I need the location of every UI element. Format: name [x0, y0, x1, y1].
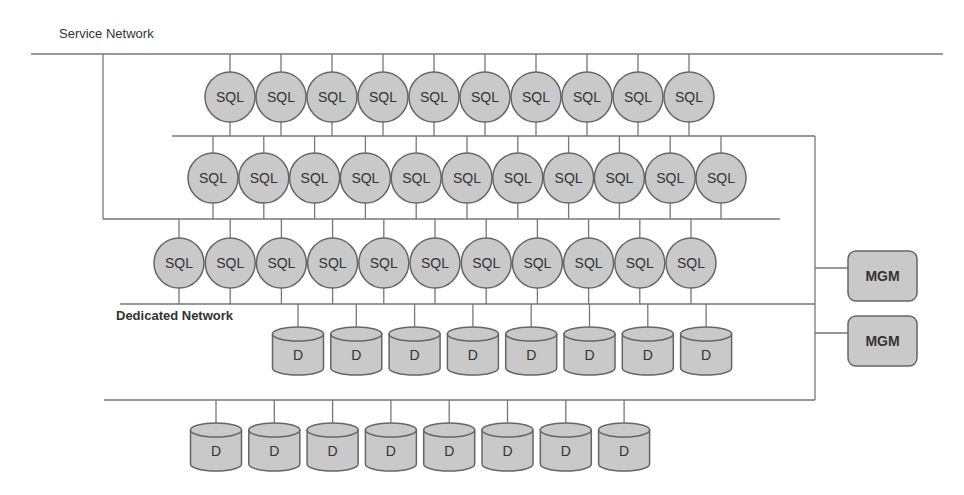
sql-node: SQL	[461, 238, 511, 288]
data-node: D	[599, 423, 650, 471]
data-node-label: D	[386, 443, 396, 459]
sql-node: SQL	[239, 153, 289, 203]
sql-node-label: SQL	[267, 255, 295, 271]
data-node-group: DDDDDDDDDDDDDDDD	[191, 327, 732, 471]
sql-node: SQL	[493, 153, 543, 203]
cluster-topology-diagram: SQLSQLSQLSQLSQLSQLSQLSQLSQLSQLSQLSQLSQLS…	[0, 0, 964, 495]
sql-node-label: SQL	[624, 89, 652, 105]
sql-node-label: SQL	[421, 255, 449, 271]
mgm-node: MGM	[848, 316, 917, 366]
sql-node: SQL	[188, 153, 238, 203]
mgm-node-label: MGM	[865, 268, 899, 284]
data-node: D	[249, 423, 300, 471]
sql-node-label: SQL	[216, 89, 244, 105]
data-node: D	[622, 327, 673, 375]
data-node: D	[424, 423, 475, 471]
data-node-top	[681, 327, 732, 341]
sql-node-label: SQL	[165, 255, 193, 271]
data-node-top	[424, 423, 475, 437]
data-node-label: D	[351, 347, 361, 363]
diagram-canvas: SQLSQLSQLSQLSQLSQLSQLSQLSQLSQLSQLSQLSQLS…	[0, 0, 964, 495]
data-node-top	[273, 327, 324, 341]
data-node-label: D	[502, 443, 512, 459]
data-node-top	[365, 423, 416, 437]
sql-node-label: SQL	[250, 170, 278, 186]
data-node-label: D	[211, 443, 221, 459]
sql-node: SQL	[205, 238, 255, 288]
sql-node: SQL	[409, 72, 459, 122]
sql-node: SQL	[205, 72, 255, 122]
sql-node-label: SQL	[267, 89, 295, 105]
sql-node: SQL	[460, 72, 510, 122]
sql-node-label: SQL	[707, 170, 735, 186]
mgm-node-label: MGM	[865, 333, 899, 349]
data-node-top	[249, 423, 300, 437]
data-node: D	[191, 423, 242, 471]
data-node: D	[482, 423, 533, 471]
sql-node-label: SQL	[402, 170, 430, 186]
sql-node-label: SQL	[472, 255, 500, 271]
sql-node: SQL	[256, 238, 306, 288]
data-node-top	[389, 327, 440, 341]
sql-node-label: SQL	[370, 255, 398, 271]
sql-node: SQL	[544, 153, 594, 203]
data-node-label: D	[410, 347, 420, 363]
data-node: D	[540, 423, 591, 471]
sql-node: SQL	[359, 238, 409, 288]
data-node-top	[599, 423, 650, 437]
sql-node-label: SQL	[656, 170, 684, 186]
sql-node: SQL	[696, 153, 746, 203]
data-node-label: D	[561, 443, 571, 459]
data-node: D	[564, 327, 615, 375]
data-node-top	[307, 423, 358, 437]
data-node-top	[331, 327, 382, 341]
service-network-label: Service Network	[59, 26, 154, 41]
data-node-top	[482, 423, 533, 437]
sql-node-label: SQL	[523, 255, 551, 271]
data-node-label: D	[468, 347, 478, 363]
dedicated-network-label: Dedicated Network	[116, 308, 233, 323]
sql-node-label: SQL	[504, 170, 532, 186]
sql-node: SQL	[308, 238, 358, 288]
sql-node-label: SQL	[453, 170, 481, 186]
management-node-group: MGMMGM	[848, 251, 917, 366]
sql-node-label: SQL	[555, 170, 583, 186]
data-node-top	[191, 423, 242, 437]
sql-node: SQL	[664, 72, 714, 122]
sql-node: SQL	[307, 72, 357, 122]
sql-node-label: SQL	[318, 89, 346, 105]
sql-node-label: SQL	[626, 255, 654, 271]
data-node-label: D	[701, 347, 711, 363]
sql-node-label: SQL	[199, 170, 227, 186]
sql-node-label: SQL	[471, 89, 499, 105]
sql-node: SQL	[594, 153, 644, 203]
sql-node-label: SQL	[319, 255, 347, 271]
sql-node-label: SQL	[605, 170, 633, 186]
data-node: D	[273, 327, 324, 375]
sql-node-label: SQL	[216, 255, 244, 271]
sql-node-label: SQL	[677, 255, 705, 271]
sql-node: SQL	[666, 238, 716, 288]
sql-node: SQL	[613, 72, 663, 122]
sql-node-label: SQL	[369, 89, 397, 105]
sql-node: SQL	[615, 238, 665, 288]
data-node-label: D	[293, 347, 303, 363]
sql-node: SQL	[645, 153, 695, 203]
sql-node-group: SQLSQLSQLSQLSQLSQLSQLSQLSQLSQLSQLSQLSQLS…	[154, 72, 746, 288]
data-node-label: D	[619, 443, 629, 459]
sql-node: SQL	[562, 72, 612, 122]
data-node-top	[540, 423, 591, 437]
sql-node: SQL	[256, 72, 306, 122]
sql-node: SQL	[358, 72, 408, 122]
sql-node-label: SQL	[351, 170, 379, 186]
data-node-top	[622, 327, 673, 341]
data-node: D	[506, 327, 557, 375]
sql-node: SQL	[154, 238, 204, 288]
data-node-top	[506, 327, 557, 341]
sql-node: SQL	[410, 238, 460, 288]
sql-node: SQL	[511, 72, 561, 122]
sql-node: SQL	[391, 153, 441, 203]
sql-node-label: SQL	[522, 89, 550, 105]
data-node: D	[307, 423, 358, 471]
data-node-label: D	[643, 347, 653, 363]
